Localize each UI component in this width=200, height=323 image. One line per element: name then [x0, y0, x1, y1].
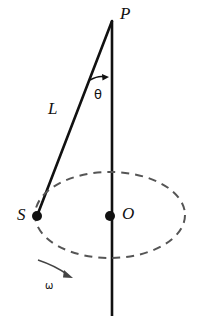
- label-apex-P: P: [120, 5, 130, 22]
- angle-arrow-group: [90, 74, 109, 81]
- angle-arrow-head-icon: [102, 74, 109, 81]
- omega-arrow-group: [38, 260, 73, 278]
- label-length-L: L: [48, 100, 57, 117]
- bob-point-dot-icon: [32, 211, 42, 221]
- label-angle-theta: θ: [94, 88, 102, 101]
- figure-canvas: P θ L S O ω: [0, 0, 200, 323]
- center-point-dot-icon: [105, 211, 115, 221]
- label-center-O: O: [122, 205, 134, 222]
- label-bob-S: S: [17, 206, 26, 223]
- diagram-svg: [0, 0, 200, 323]
- label-angular-velocity-omega: ω: [45, 281, 53, 291]
- omega-arrow-head-icon: [63, 270, 73, 278]
- string-line-L: [37, 21, 112, 216]
- omega-arrow-shaft: [38, 260, 68, 275]
